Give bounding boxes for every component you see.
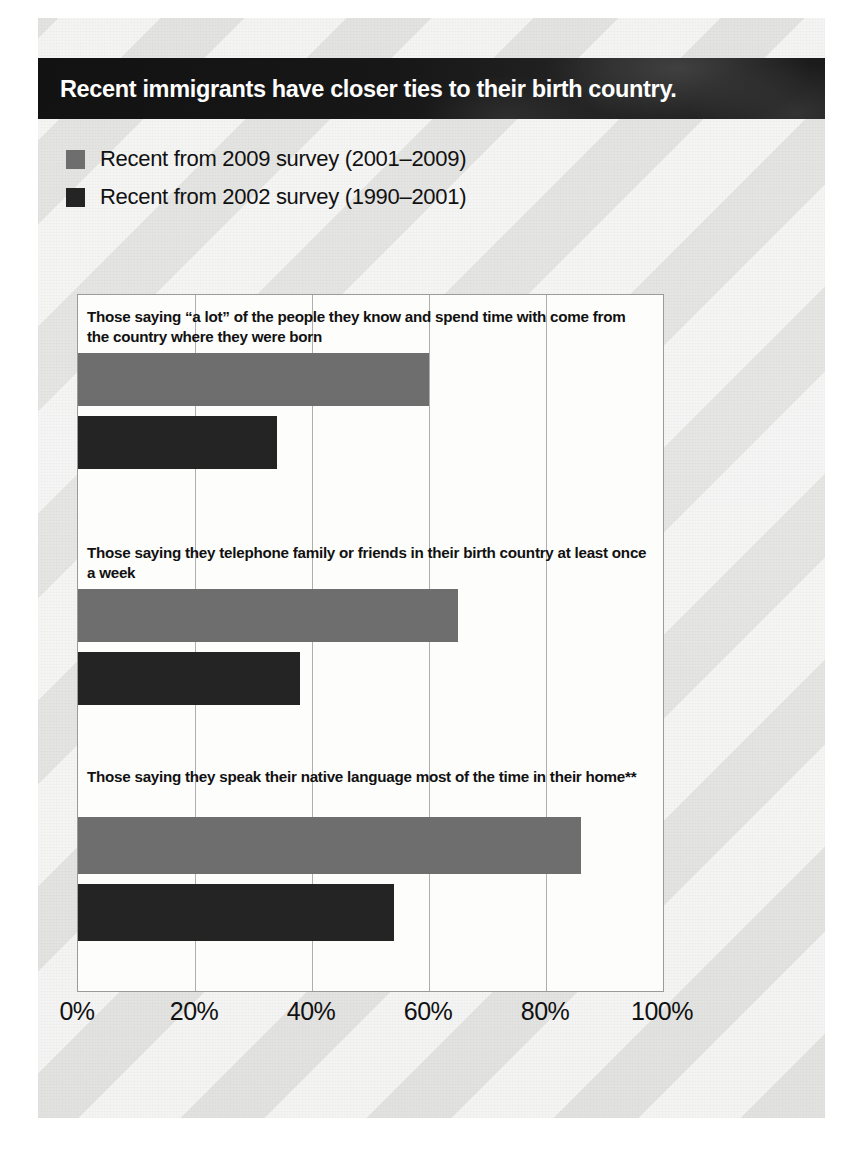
legend-swatch-recent2002	[66, 188, 85, 207]
bar-recent2002	[78, 652, 300, 705]
title-banner: Recent immigrants have closer ties to th…	[38, 58, 825, 119]
x-tick-label: 40%	[287, 997, 336, 1026]
gridline-80	[546, 295, 547, 991]
x-tick-label: 0%	[59, 997, 94, 1026]
page-title: Recent immigrants have closer ties to th…	[60, 75, 677, 102]
chart-legend: Recent from 2009 survey (2001–2009)Recen…	[66, 140, 766, 216]
x-tick-label: 60%	[404, 997, 453, 1026]
legend-label: Recent from 2009 survey (2001–2009)	[100, 146, 466, 172]
legend-label: Recent from 2002 survey (1990–2001)	[100, 184, 466, 210]
bar-recent2002	[78, 416, 277, 469]
legend-item: Recent from 2009 survey (2001–2009)	[66, 140, 766, 178]
page: Recent immigrants have closer ties to th…	[0, 0, 863, 1170]
x-tick-label: 80%	[521, 997, 570, 1026]
category-label: Those saying they telephone family or fr…	[87, 543, 647, 583]
gridline-60	[429, 295, 430, 991]
bar-recent2009	[78, 589, 458, 642]
category-label: Those saying “a lot” of the people they …	[87, 307, 647, 347]
bar-recent2009	[78, 353, 429, 406]
bar-recent2002	[78, 884, 394, 941]
bar-recent2009	[78, 817, 581, 874]
x-tick-label: 100%	[631, 997, 693, 1026]
chart-plot-area: Those saying “a lot” of the people they …	[77, 294, 664, 992]
x-axis-tick-labels: 0%20%40%60%80%100%	[0, 997, 863, 1037]
x-tick-label: 20%	[170, 997, 219, 1026]
category-label: Those saying they speak their native lan…	[87, 767, 647, 787]
legend-swatch-recent2009	[66, 150, 85, 169]
legend-item: Recent from 2002 survey (1990–2001)	[66, 178, 766, 216]
